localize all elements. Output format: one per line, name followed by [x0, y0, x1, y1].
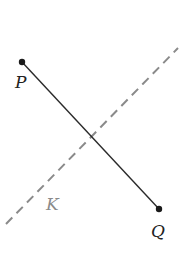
dashed-line-k	[6, 48, 178, 224]
point-q-dot	[156, 206, 162, 212]
label-p: P	[14, 72, 27, 92]
point-p-dot	[19, 59, 25, 65]
diagram-canvas: P Q K	[0, 0, 182, 274]
label-q: Q	[151, 221, 165, 241]
label-k: K	[45, 194, 60, 214]
